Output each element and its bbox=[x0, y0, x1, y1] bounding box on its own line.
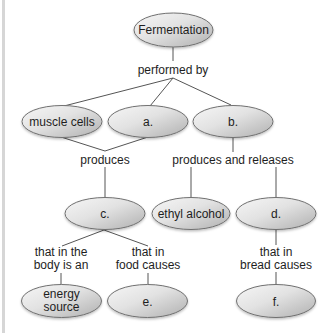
link-label-food-line2: food causes bbox=[116, 258, 181, 272]
node-muscle-cells: muscle cells bbox=[22, 106, 102, 138]
node-label: c. bbox=[100, 207, 109, 221]
node-energy-source: energy source bbox=[22, 285, 102, 318]
connector-line bbox=[150, 78, 173, 106]
link-label-bread-line1: that in bbox=[260, 245, 293, 259]
node-label: e. bbox=[142, 295, 152, 309]
node-fermentation: Fermentation bbox=[134, 13, 213, 47]
node-label: ethyl alcohol bbox=[158, 207, 225, 221]
connector-line bbox=[104, 230, 148, 246]
node-label: Fermentation bbox=[138, 23, 209, 37]
link-label-produces: produces bbox=[80, 153, 129, 167]
concept-map: Fermentation muscle cells a. b. c. ethyl… bbox=[0, 0, 331, 333]
connector-line bbox=[105, 137, 148, 151]
node-label: d. bbox=[271, 207, 281, 221]
node-label: a. bbox=[143, 115, 153, 129]
connector-line bbox=[62, 230, 104, 246]
node-label-line1: energy bbox=[43, 287, 80, 301]
link-label-bread-line2: bread causes bbox=[240, 258, 312, 272]
node-label: muscle cells bbox=[29, 115, 94, 129]
node-label-line2: source bbox=[43, 300, 79, 314]
node-c: c. bbox=[65, 198, 145, 230]
connector-line bbox=[64, 78, 173, 106]
connector-line bbox=[173, 78, 231, 105]
link-label-body-line1: that in the bbox=[35, 245, 88, 259]
node-label: b. bbox=[228, 115, 238, 129]
node-label: f. bbox=[273, 295, 280, 309]
connector-line bbox=[61, 137, 105, 151]
link-label-performed-by: performed by bbox=[138, 63, 209, 77]
node-b: b. bbox=[193, 106, 273, 138]
node-e: e. bbox=[108, 285, 188, 318]
node-d: d. bbox=[236, 198, 316, 230]
node-ethyl-alcohol: ethyl alcohol bbox=[152, 198, 230, 230]
link-label-produces-and-releases: produces and releases bbox=[172, 153, 293, 167]
link-label-food-line1: that in bbox=[132, 245, 165, 259]
link-label-body-line2: body is an bbox=[34, 258, 89, 272]
node-f: f. bbox=[237, 285, 316, 318]
node-a: a. bbox=[108, 106, 188, 138]
